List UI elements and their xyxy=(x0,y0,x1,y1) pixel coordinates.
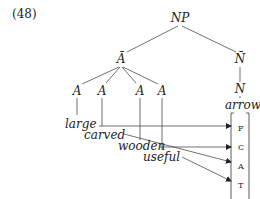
node-n-bar: N̄ xyxy=(234,51,246,66)
node-np: NP xyxy=(170,11,191,25)
example-number: (48) xyxy=(12,7,37,21)
arrow-useful-to-t xyxy=(182,157,231,181)
node-a-4: A xyxy=(157,84,167,98)
slot-t: T xyxy=(238,181,244,190)
node-a-1: A xyxy=(72,84,82,98)
syntax-tree-diagram: (48) NP Ā N̄ N A A A A arrow large carve… xyxy=(0,0,260,199)
node-a-3: A xyxy=(135,84,145,98)
node-a-2: A xyxy=(97,84,107,98)
head-word: arrow xyxy=(225,98,260,112)
slot-f: F xyxy=(238,124,244,133)
slot-c: C xyxy=(238,143,244,152)
slot-a: A xyxy=(237,162,244,171)
node-a-bar: Ā xyxy=(116,51,126,66)
node-n: N xyxy=(234,82,246,96)
word-useful: useful xyxy=(143,150,180,164)
